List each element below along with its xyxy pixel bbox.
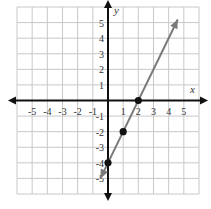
y-tick-label: 1	[99, 80, 104, 91]
x-axis-right-arrow-icon	[200, 97, 208, 105]
y-tick-label: -3	[96, 142, 104, 153]
data-point	[120, 128, 127, 135]
x-axis-label: x	[189, 83, 195, 95]
y-tick-label: 4	[99, 33, 104, 44]
x-tick-label: 5	[181, 106, 186, 117]
x-tick-label: 1	[121, 106, 126, 117]
x-tick-label: -2	[73, 106, 81, 117]
y-tick-label: 3	[99, 49, 104, 60]
y-axis-down-arrow-icon	[104, 193, 112, 201]
x-tick-label: 3	[151, 106, 156, 117]
y-axis-up-arrow-icon	[104, 0, 112, 8]
x-tick-label: -5	[28, 106, 36, 117]
coordinate-plane: -5-4-3-2-11234554321-1-2-3-4-5 x y	[0, 0, 211, 209]
x-tick-label: 4	[166, 106, 171, 117]
data-point	[135, 97, 142, 104]
data-point	[104, 159, 111, 166]
axes	[8, 0, 208, 201]
x-axis-left-arrow-icon	[8, 97, 16, 105]
y-tick-label: 5	[99, 18, 104, 29]
y-tick-label: -4	[96, 158, 104, 169]
y-tick-label: 2	[99, 64, 104, 75]
x-tick-label: -3	[58, 106, 66, 117]
line-series	[100, 19, 177, 178]
x-tick-label: 2	[136, 106, 141, 117]
y-tick-label: -1	[96, 111, 104, 122]
y-tick-label: -2	[96, 127, 104, 138]
y-axis-label: y	[113, 4, 119, 16]
x-tick-label: -4	[43, 106, 51, 117]
